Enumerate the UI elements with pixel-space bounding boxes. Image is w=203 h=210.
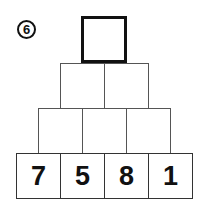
pyramid-cell[interactable]	[60, 63, 105, 109]
pyramid-base-cell: 7	[16, 153, 61, 199]
pyramid-cell[interactable]	[82, 108, 127, 154]
pyramid-cell[interactable]	[104, 63, 149, 109]
pyramid-top-cell[interactable]	[81, 16, 127, 63]
pyramid-base-cell: 8	[104, 153, 149, 199]
pyramid-base-cell: 1	[148, 153, 193, 199]
pyramid-cell[interactable]	[126, 108, 171, 154]
problem-number-badge: 6	[17, 20, 36, 39]
pyramid-cell[interactable]	[38, 108, 83, 154]
pyramid-base-cell: 5	[60, 153, 105, 199]
